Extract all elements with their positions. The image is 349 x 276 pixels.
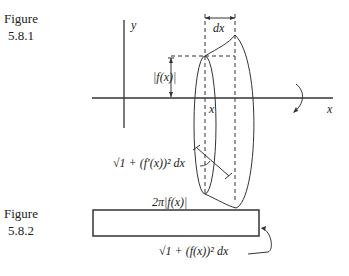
arc-length-label: √1 + (f′(x))² dx (113, 157, 185, 169)
figure2-caption-number: 5.8.2 (8, 224, 34, 238)
width-label: 2π|f(x)| (152, 196, 187, 208)
dx-label: dx (213, 22, 224, 34)
fx-label: |f(x)| (153, 71, 176, 83)
x-axis-label: x (327, 103, 332, 115)
height-label: √1 + (f(x))² dx (159, 245, 228, 257)
x-point-label: x (209, 103, 214, 115)
figure2-caption-word: Figure (4, 207, 38, 221)
y-axis-label: y (131, 19, 136, 31)
figure1-diagram (0, 0, 349, 276)
